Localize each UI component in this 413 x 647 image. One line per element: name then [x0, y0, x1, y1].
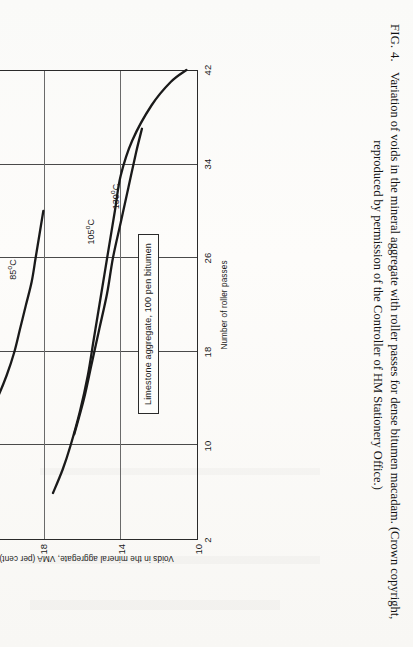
y-axis-label: Voids in the mineral aggregate, VMA (per…: [0, 553, 216, 562]
curve-label-85c: 85oC: [6, 259, 18, 279]
legend-box: Limestone aggregate, 100 pen bitumen: [138, 233, 159, 413]
figure-number: FIG. 4.: [388, 24, 402, 62]
xtick-10: 10: [202, 440, 213, 451]
figure-caption: FIG. 4.Variation of voids in the mineral…: [351, 0, 409, 647]
xtick-18: 18: [202, 346, 213, 357]
legend-text: Limestone aggregate, 100 pen bitumen: [143, 242, 153, 404]
xtick-34: 34: [202, 158, 213, 169]
caption-text-line-1: Variation of voids in the mineral aggreg…: [388, 71, 402, 618]
curve-85c: [0, 211, 43, 446]
chart-curves: [0, 70, 198, 540]
curve-105c: [53, 70, 186, 493]
xtick-26: 26: [202, 252, 213, 263]
xtick-2: 2: [202, 537, 213, 542]
curve-130c: [74, 128, 142, 434]
curve-label-105c: 105oC: [83, 219, 95, 244]
x-axis-label: Number of roller passes: [220, 70, 229, 540]
figure-container: 2 10 18 26 34 42 10 14 18 22 Number of r…: [0, 0, 323, 647]
caption-text-line-2: reproduced by permission of the Controll…: [370, 24, 387, 624]
xtick-42: 42: [202, 64, 213, 75]
curve-label-130c: 130oC: [108, 183, 120, 208]
rotated-chart-area: 2 10 18 26 34 42 10 14 18 22 Number of r…: [0, 44, 282, 604]
